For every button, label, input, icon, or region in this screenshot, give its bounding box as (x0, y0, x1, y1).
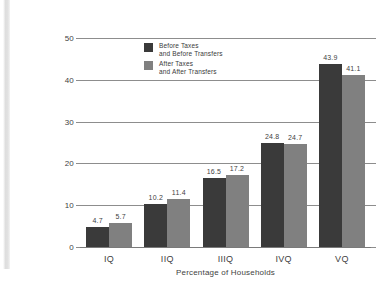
y-tick-mark-left-0 (76, 247, 80, 248)
y-tick-mark-left-10 (76, 205, 80, 206)
x-axis-category-label: IVQ (275, 254, 291, 264)
bar-value-label: 11.4 (172, 189, 186, 196)
bar: 16.5 (203, 178, 226, 247)
y-axis-tick-label: 30 (65, 117, 74, 126)
bar: 17.2 (226, 175, 249, 247)
bar-value-label: 24.8 (265, 133, 279, 140)
y-tick-mark-right-50 (371, 38, 376, 39)
x-axis-category-label: IIQ (161, 254, 174, 264)
bar: 10.2 (144, 204, 167, 247)
bar-value-label: 43.9 (323, 54, 337, 61)
bar: 4.7 (86, 227, 109, 247)
bar-value-label: 10.2 (149, 194, 163, 201)
bar: 24.8 (261, 143, 284, 247)
y-tick-mark-left-20 (76, 163, 80, 164)
bar: 41.1 (342, 75, 365, 247)
bar-group: 4.75.7IQ (86, 38, 132, 247)
bar-group: 24.824.7IVQ (261, 38, 307, 247)
legend-label: Before Taxes and Before Transfers (159, 42, 223, 57)
plot-area: 01020304050 4.75.7IQ10.211.4IIQ16.517.2I… (80, 38, 371, 247)
legend-color-swatch (144, 61, 153, 70)
y-axis-tick-label: 10 (65, 201, 74, 210)
grouped-bar-chart: 01020304050 4.75.7IQ10.211.4IIQ16.517.2I… (40, 16, 380, 281)
bar-value-label: 5.7 (115, 213, 125, 220)
y-axis-tick-label: 40 (65, 75, 74, 84)
bar: 5.7 (109, 223, 132, 247)
x-axis-category-label: IQ (104, 254, 114, 264)
bar-value-label: 4.7 (92, 217, 102, 224)
y-tick-mark-right-10 (371, 205, 376, 206)
y-axis-tick-label: 0 (69, 243, 74, 252)
y-tick-mark-right-40 (371, 80, 376, 81)
y-axis-tick-label: 50 (65, 34, 74, 43)
x-axis-category-label: VQ (335, 254, 349, 264)
y-tick-mark-right-20 (371, 163, 376, 164)
y-axis-tick-label: 20 (65, 159, 74, 168)
bar-value-label: 41.1 (346, 65, 360, 72)
page-edge-artifact (3, 0, 10, 269)
legend-entry: Before Taxes and Before Transfers (144, 42, 223, 57)
chart-legend: Before Taxes and Before TransfersAfter T… (144, 42, 223, 78)
bar: 11.4 (167, 199, 190, 247)
legend-entry: After Taxes and After Transfers (144, 60, 223, 75)
y-tick-mark-left-40 (76, 80, 80, 81)
bar-group: 43.941.1VQ (319, 38, 365, 247)
bar-value-label: 24.7 (288, 134, 302, 141)
gridline-0 (80, 247, 371, 248)
bar: 24.7 (284, 144, 307, 247)
x-axis-title: Percentage of Households (80, 268, 371, 277)
legend-color-swatch (144, 43, 153, 52)
bar-value-label: 17.2 (230, 165, 244, 172)
bar-value-label: 16.5 (207, 168, 221, 175)
legend-label: After Taxes and After Transfers (159, 60, 217, 75)
y-tick-mark-left-30 (76, 122, 80, 123)
x-axis-category-label: IIIQ (218, 254, 234, 264)
y-tick-mark-left-50 (76, 38, 80, 39)
bar: 43.9 (319, 64, 342, 248)
y-tick-mark-right-0 (371, 247, 376, 248)
y-tick-mark-right-30 (371, 122, 376, 123)
